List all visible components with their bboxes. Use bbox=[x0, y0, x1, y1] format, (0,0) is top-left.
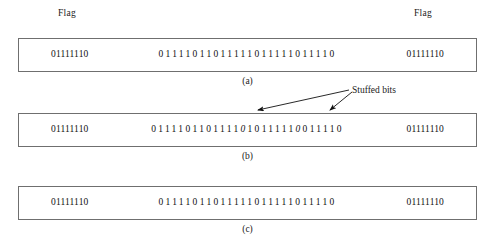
data-bit: 1 bbox=[323, 124, 330, 134]
data-bit: 1 bbox=[330, 124, 337, 134]
data-bit: 1 bbox=[302, 197, 309, 207]
data-bit: 0 bbox=[295, 197, 302, 207]
frame-inner-b: 01111110 0111101101111010111110011110 01… bbox=[19, 114, 476, 146]
data-bit: 1 bbox=[165, 197, 172, 207]
payload-bits-a: 01111011011111011111011110 bbox=[158, 50, 336, 60]
caption-a: (a) bbox=[18, 76, 477, 86]
data-bit: 1 bbox=[241, 49, 248, 59]
arrow-to-second-stuffed-bit bbox=[330, 92, 352, 110]
data-bit: 1 bbox=[220, 124, 227, 134]
frame-inner-a: 01111110 01111011011111011111011110 0111… bbox=[19, 39, 476, 71]
data-bit: 1 bbox=[275, 124, 282, 134]
caption-c: (c) bbox=[18, 224, 477, 234]
data-bit: 0 bbox=[330, 49, 337, 59]
data-bit: 1 bbox=[227, 49, 234, 59]
frame-row-c: 01111110 01111011011111011111011110 0111… bbox=[18, 186, 477, 220]
payload-bits-b: 0111101101111010111110011110 bbox=[151, 125, 344, 135]
data-bit: 0 bbox=[254, 197, 261, 207]
data-bit: 0 bbox=[330, 197, 337, 207]
data-bit: 1 bbox=[221, 197, 228, 207]
data-bit: 1 bbox=[200, 49, 207, 59]
data-bit: 1 bbox=[158, 124, 165, 134]
data-bit: 1 bbox=[288, 197, 295, 207]
data-bit: 1 bbox=[199, 124, 206, 134]
stuffed-bits-label: Stuffed bits bbox=[352, 85, 396, 95]
data-bit: 1 bbox=[247, 49, 254, 59]
flag-bits-right-b: 01111110 bbox=[407, 125, 444, 135]
bit-stuffing-figure: Flag Flag 01111110 011110110111110111110… bbox=[0, 0, 494, 247]
data-bit: 1 bbox=[206, 197, 213, 207]
frame-row-b: 01111110 0111101101111010111110011110 01… bbox=[18, 113, 477, 147]
data-bit: 0 bbox=[151, 124, 158, 134]
caption-b: (b) bbox=[18, 151, 477, 161]
data-bit: 0 bbox=[295, 49, 302, 59]
flag-bits-left-b: 01111110 bbox=[51, 125, 88, 135]
data-bit: 1 bbox=[302, 49, 309, 59]
data-bit: 1 bbox=[268, 124, 275, 134]
frame-inner-c: 01111110 01111011011111011111011110 0111… bbox=[19, 187, 476, 219]
data-bit: 1 bbox=[200, 197, 207, 207]
data-bit: 1 bbox=[316, 124, 323, 134]
data-bit: 0 bbox=[158, 197, 165, 207]
flag-label-left: Flag bbox=[58, 8, 76, 18]
data-bit: 0 bbox=[337, 124, 344, 134]
flag-label-right: Flag bbox=[414, 8, 432, 18]
data-bit: 1 bbox=[227, 197, 234, 207]
data-bit: 0 bbox=[254, 49, 261, 59]
flag-bits-right-a: 01111110 bbox=[407, 50, 444, 60]
data-bit: 1 bbox=[261, 49, 268, 59]
data-bit: 1 bbox=[282, 197, 289, 207]
arrow-to-first-stuffed-bit bbox=[258, 90, 349, 110]
payload-bits-c: 01111011011111011111011110 bbox=[158, 198, 336, 208]
flag-bits-left-a: 01111110 bbox=[51, 50, 88, 60]
data-bit: 1 bbox=[282, 49, 289, 59]
data-bit: 1 bbox=[247, 197, 254, 207]
data-bit: 1 bbox=[261, 197, 268, 207]
flag-bits-left-c: 01111110 bbox=[51, 198, 88, 208]
data-bit: 1 bbox=[165, 49, 172, 59]
data-bit: 1 bbox=[241, 197, 248, 207]
data-bit: 1 bbox=[221, 49, 228, 59]
flag-bits-right-c: 01111110 bbox=[407, 198, 444, 208]
data-bit: 1 bbox=[213, 124, 220, 134]
data-bit: 1 bbox=[288, 49, 295, 59]
data-bit: 1 bbox=[206, 49, 213, 59]
data-bit: 0 bbox=[158, 49, 165, 59]
frame-row-a: 01111110 01111011011111011111011110 0111… bbox=[18, 38, 477, 72]
data-bit: 1 bbox=[192, 124, 199, 134]
